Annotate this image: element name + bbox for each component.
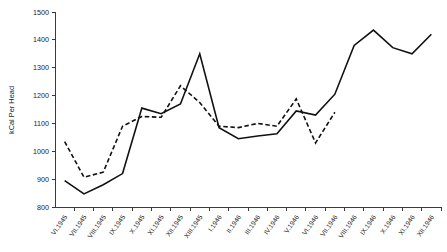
y-axis-tick-label: 900 (37, 175, 49, 184)
x-axis-tick-label: X.1946 (379, 213, 397, 234)
x-axis-tick-label: V.1946 (283, 213, 301, 234)
y-axis-title: kCal Per Head (7, 86, 16, 134)
x-axis-tick-label: VIII.1946 (337, 213, 358, 239)
x-axis-tick-label: XII.1946 (415, 213, 435, 237)
x-axis-tick-label: XI.1946 (397, 213, 416, 236)
y-axis-tick-label: 1200 (33, 91, 49, 100)
y-axis-tick-label: 1100 (34, 119, 49, 128)
series-line-solid (65, 30, 432, 194)
y-axis: 800900100011001200130014001500 (33, 8, 55, 212)
series-line-dashed (65, 86, 335, 177)
x-axis-tick-label: VI.1946 (301, 213, 320, 236)
x-axis-tick-label: XII.1945 (164, 213, 184, 237)
x-axis-tick-label: VII.1946 (319, 213, 339, 237)
y-axis-tick-label: 1000 (33, 147, 49, 156)
x-axis-tick-label: VIII.1945 (86, 213, 107, 239)
y-axis-tick-label: 1400 (33, 35, 49, 44)
x-axis-tick-label: VII.1945 (68, 213, 88, 237)
y-axis-tick-label: 1500 (33, 8, 49, 17)
line-chart: 800900100011001200130014001500 VI.1945VI… (0, 0, 447, 252)
x-axis-tick-label: XIII.1945 (183, 213, 204, 239)
x-axis: VI.1945VII.1945VIII.1945IX.1945X.1945XI.… (50, 207, 441, 239)
chart-container: 800900100011001200130014001500 VI.1945VI… (0, 0, 447, 252)
x-axis-tick-label: III.1946 (243, 213, 262, 235)
x-axis-tick-label: VI.1945 (50, 213, 69, 236)
x-axis-tick-label: II.1946 (225, 213, 242, 234)
x-axis-tick-label: XI.1945 (146, 213, 165, 236)
x-axis-tick-label: IX.1946 (358, 213, 377, 236)
x-axis-tick-label: X.1945 (128, 213, 146, 234)
x-axis-tick-label: IV.1946 (262, 213, 281, 235)
y-axis-tick-label: 1300 (33, 63, 49, 72)
y-axis-tick-label: 800 (37, 203, 49, 212)
x-axis-tick-label: I.1946 (207, 213, 223, 232)
x-axis-tick-label: IX.1945 (108, 213, 127, 236)
